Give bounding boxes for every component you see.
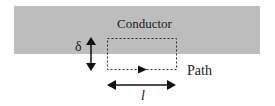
skin-depth-label: δ — [75, 39, 82, 55]
path-direction-arrow-icon — [138, 66, 147, 74]
length-label: l — [141, 88, 145, 104]
conductor-label: Conductor — [117, 16, 172, 32]
path-label: Path — [187, 63, 212, 79]
path-rectangle — [108, 39, 177, 70]
